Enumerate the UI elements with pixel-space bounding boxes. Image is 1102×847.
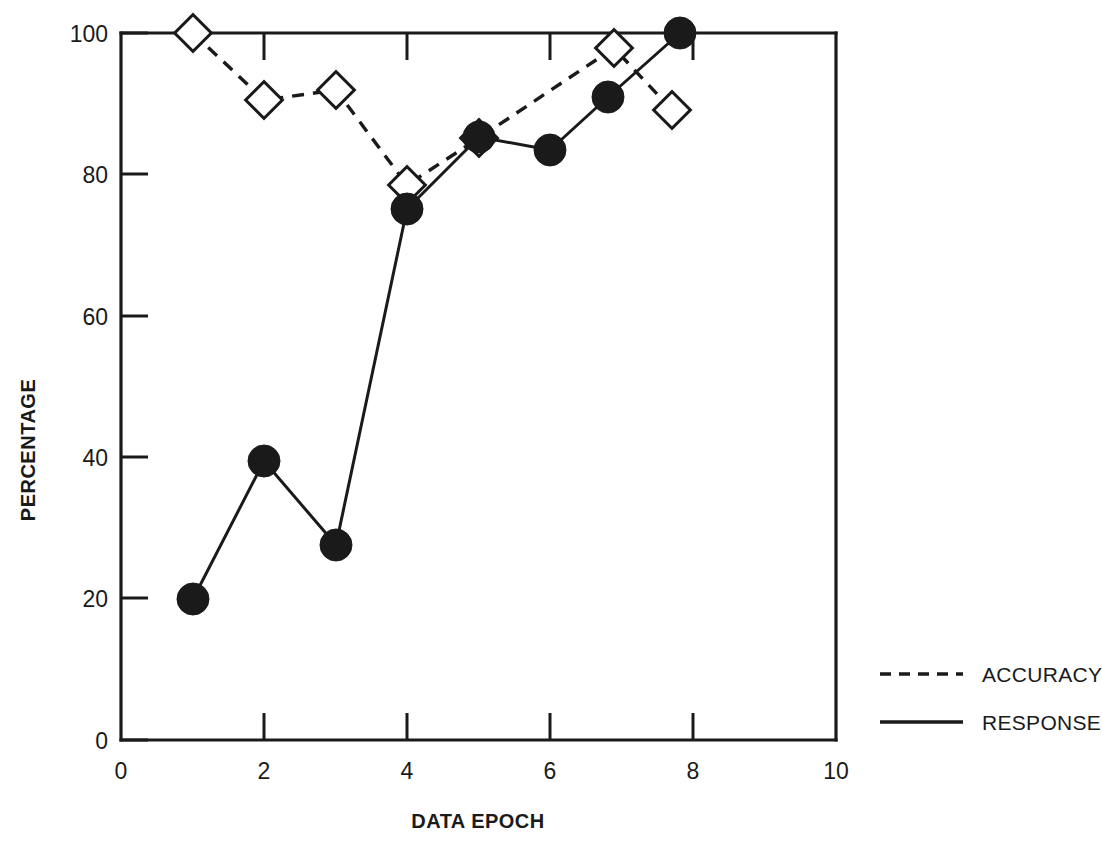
x-tick-label-8: 8 <box>687 758 700 784</box>
y-tick-label-20: 20 <box>82 586 108 612</box>
y-tick-label-80: 80 <box>82 162 108 188</box>
y-tick-label-0: 0 <box>95 728 108 754</box>
x-tick-label-2: 2 <box>258 758 271 784</box>
response-marker-epoch-8 <box>664 17 696 49</box>
response-marker-epoch-6 <box>534 134 566 166</box>
response-marker-epoch-7 <box>592 81 624 113</box>
legend-label-accuracy: ACCURACY <box>982 663 1102 686</box>
accuracy-marker-epoch-8 <box>654 92 691 129</box>
response-marker-epoch-1 <box>177 583 209 615</box>
legend-item-accuracy: ACCURACY <box>880 663 1102 686</box>
x-tick-label-10: 10 <box>823 758 849 784</box>
y-tick-label-40: 40 <box>82 445 108 471</box>
response-marker-epoch-3 <box>320 529 352 561</box>
response-marker-epoch-5 <box>463 121 495 153</box>
chart-figure: 100 80 60 40 20 0 0 2 4 6 8 10 <box>0 0 1102 847</box>
y-axis-ticks <box>121 33 148 740</box>
accuracy-marker-epoch-3 <box>318 72 355 109</box>
x-tick-label-0: 0 <box>115 758 128 784</box>
legend-item-response: RESPONSE <box>880 711 1101 734</box>
y-tick-label-60: 60 <box>82 304 108 330</box>
chart-legend: ACCURACY RESPONSE <box>880 663 1102 734</box>
x-axis-tick-labels: 0 2 4 6 8 10 <box>115 758 849 784</box>
x-tick-label-4: 4 <box>401 758 414 784</box>
chart-svg: 100 80 60 40 20 0 0 2 4 6 8 10 <box>0 0 1102 847</box>
x-tick-label-6: 6 <box>544 758 557 784</box>
y-tick-label-100: 100 <box>70 21 108 47</box>
accuracy-marker-epoch-2 <box>246 82 283 119</box>
response-marker-epoch-4 <box>391 193 423 225</box>
x-axis-title: DATA EPOCH <box>411 810 545 832</box>
y-axis-title: PERCENTAGE <box>17 379 39 521</box>
accuracy-marker-epoch-1 <box>175 15 212 52</box>
legend-label-response: RESPONSE <box>982 711 1101 734</box>
response-marker-epoch-2 <box>248 445 280 477</box>
y-axis-tick-labels: 100 80 60 40 20 0 <box>70 21 108 754</box>
